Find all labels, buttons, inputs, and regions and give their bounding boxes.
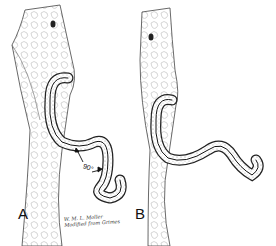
panel-label-b: B <box>135 205 145 222</box>
panel-label-a: A <box>18 205 28 222</box>
medical-illustration: 90° A B W. M. L. Moller Modified from Gr… <box>0 0 276 246</box>
